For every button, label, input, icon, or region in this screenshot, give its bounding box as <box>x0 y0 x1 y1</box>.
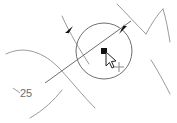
extension-line-left-icon <box>62 16 89 64</box>
dimension-value-label: 25 <box>20 87 32 99</box>
arc-bottom-right-icon <box>151 60 170 94</box>
dimension-leader-line <box>13 88 20 93</box>
cad-drawing-viewport[interactable]: 25 <box>0 0 177 123</box>
arc-right-descending-icon <box>163 9 170 42</box>
snap-crosshair-marker-icon <box>114 62 124 72</box>
dimension-label-group[interactable]: 25 <box>13 87 32 99</box>
mouse-cursor-icon <box>106 52 116 68</box>
arc-left-lower-tail-icon <box>30 90 62 118</box>
arc-top-right-icon <box>146 9 163 34</box>
geometry-layer <box>6 4 170 118</box>
drawing-surface[interactable]: 25 <box>0 0 177 123</box>
